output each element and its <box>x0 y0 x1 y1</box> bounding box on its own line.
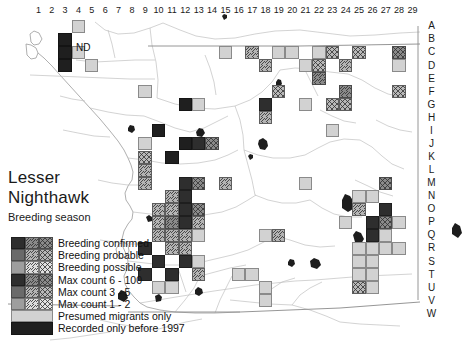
grid-cell-25U <box>352 281 365 294</box>
grid-cell-11T <box>165 268 178 281</box>
legend-label: Breeding confirmed <box>58 237 149 249</box>
grid-cell-11N <box>165 190 178 203</box>
grid-cell-13G <box>192 98 205 111</box>
column-label-7: 7 <box>112 6 126 15</box>
column-label-6: 6 <box>98 6 112 15</box>
grid-cell-15M <box>219 177 232 190</box>
map-figure: ND 1234567891011121314151617181920212223… <box>0 0 463 359</box>
grid-cell-3C <box>58 46 71 59</box>
legend-swatch-p_hi <box>25 274 39 286</box>
grid-cell-9L <box>138 164 151 177</box>
column-label-3: 3 <box>58 6 72 15</box>
grid-cell-26S <box>366 255 379 268</box>
grid-cell-18V <box>259 294 272 307</box>
grid-cell-9F <box>138 85 151 98</box>
grid-cell-22D <box>312 59 325 72</box>
legend-swatch-pre1997 <box>11 322 53 334</box>
grid-cell-18D <box>259 59 272 72</box>
grid-cell-10Q <box>152 229 165 242</box>
column-label-20: 20 <box>285 6 299 15</box>
row-label-M: M <box>426 178 437 188</box>
grid-cell-11P <box>165 216 178 229</box>
legend-swatch-p_lo <box>25 261 39 273</box>
grid-cell-10S <box>152 255 165 268</box>
legend-label: Max count 6 - 100 <box>58 274 142 286</box>
column-label-1: 1 <box>31 6 45 15</box>
grid-cell-21D <box>299 59 312 72</box>
grid-cell-13S <box>192 255 205 268</box>
grid-cell-12O <box>179 203 192 216</box>
row-label-I: I <box>426 126 437 136</box>
grid-cell-26T <box>366 268 379 281</box>
column-label-28: 28 <box>392 6 406 15</box>
grid-cell-11K <box>165 151 178 164</box>
grid-cell-11U <box>165 281 178 294</box>
grid-cell-25S <box>352 255 365 268</box>
grid-cell-24P <box>339 216 352 229</box>
grid-cell-17T <box>245 268 258 281</box>
row-label-T: T <box>426 270 437 280</box>
grid-cell-13P <box>192 216 205 229</box>
row-label-P: P <box>426 217 437 227</box>
legend-swatch-c_hi <box>11 274 25 286</box>
grid-cell-10O <box>152 203 165 216</box>
grid-cell-9J <box>138 137 151 150</box>
row-label-Q: Q <box>426 230 437 240</box>
row-label-J: J <box>426 139 437 149</box>
row-label-H: H <box>426 113 437 123</box>
grid-cell-24G <box>339 98 352 111</box>
legend-swatch-c_lo <box>11 261 25 273</box>
grid-cell-25N <box>352 190 365 203</box>
legend-label: Breeding possible <box>58 261 141 273</box>
grid-cell-28D <box>392 59 405 72</box>
grid-cell-26P <box>366 216 379 229</box>
legend-swatch-p_lo <box>25 298 39 310</box>
row-label-E: E <box>426 74 437 84</box>
column-label-19: 19 <box>272 6 286 15</box>
row-label-L: L <box>426 165 437 175</box>
grid-cell-13J <box>192 137 205 150</box>
legend-swatch-p_md <box>25 286 39 298</box>
grid-cell-13M <box>192 177 205 190</box>
grid-cell-12N <box>179 190 192 203</box>
grid-cell-23G <box>326 98 339 111</box>
grid-cell-17C <box>245 46 258 59</box>
grid-cell-13Q <box>192 229 205 242</box>
legend-swatch-s_md <box>39 286 53 298</box>
row-label-F: F <box>426 87 437 97</box>
column-label-10: 10 <box>152 6 166 15</box>
row-label-D: D <box>426 61 437 71</box>
grid-cell-12R <box>179 242 192 255</box>
column-label-4: 4 <box>71 6 85 15</box>
grid-cell-12G <box>179 98 192 111</box>
grid-cell-22E <box>312 72 325 85</box>
legend-swatch-p_md <box>25 249 39 261</box>
grid-cell-5D <box>85 59 98 72</box>
grid-cell-25R <box>352 242 365 255</box>
grid-cell-27M <box>379 177 392 190</box>
grid-cell-12M <box>179 177 192 190</box>
column-label-16: 16 <box>232 6 246 15</box>
grid-cell-3B <box>58 33 71 46</box>
row-label-A: A <box>426 21 437 31</box>
grid-cell-26U <box>366 281 379 294</box>
grid-cell-23I <box>326 124 339 137</box>
grid-cell-9M <box>138 177 151 190</box>
grid-cell-22C <box>312 46 325 59</box>
legend-label: Breeding probable <box>58 249 144 261</box>
grid-cell-28C <box>392 46 405 59</box>
grid-cell-28R <box>392 242 405 255</box>
grid-cell-14J <box>205 137 218 150</box>
column-label-8: 8 <box>125 6 139 15</box>
season-subtitle: Breeding season <box>8 211 91 224</box>
legend-label: Recorded only before 1997 <box>58 322 185 334</box>
legend-swatch-c_hi <box>11 237 25 249</box>
legend-swatch-s_lo <box>39 298 53 310</box>
grid-cell-18H <box>259 111 272 124</box>
grid-cell-27Q <box>379 229 392 242</box>
column-label-5: 5 <box>85 6 99 15</box>
grid-cell-11R <box>165 242 178 255</box>
legend-swatch-c_lo <box>11 298 25 310</box>
legend-swatch-c_md <box>11 249 25 261</box>
grid-cell-19F <box>272 85 285 98</box>
